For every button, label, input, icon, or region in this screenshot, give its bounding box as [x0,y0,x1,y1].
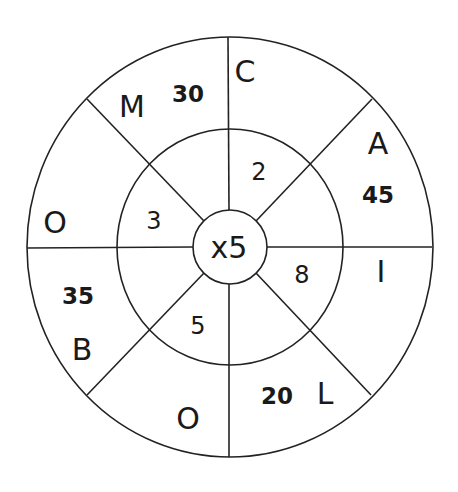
inner-number-3: 3 [146,207,161,235]
outer-letter-l: L [317,376,334,411]
spoke-top [228,37,229,210]
score-35: 35 [62,283,94,309]
spoke-top-left [87,99,204,221]
outer-letter-o-left: O [43,205,67,240]
outer-letter-i: I [377,254,386,289]
inner-number-2: 2 [251,158,266,186]
outer-letter-b: B [72,332,93,367]
inner-number-5: 5 [190,312,205,340]
spoke-top-right [256,99,372,221]
spoke-left [27,247,193,248]
inner-number-8: 8 [294,261,309,289]
spoke-bottom-left [87,273,204,395]
spoke-bottom-right [256,273,371,395]
target-wheel-diagram: x5 2 8 5 3 C A I L O B O M 30 45 20 35 [0,0,458,492]
score-20: 20 [261,383,293,409]
outer-letter-o-bottom: O [176,401,200,436]
score-30: 30 [172,81,204,107]
outer-letter-c: C [235,54,256,89]
outer-letter-m: M [119,89,145,124]
outer-letter-a: A [368,126,389,161]
score-45: 45 [362,182,394,208]
multiplier-label: x5 [211,230,248,265]
